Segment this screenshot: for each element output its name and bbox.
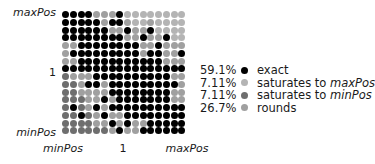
grid-dot bbox=[116, 89, 123, 96]
grid-dot bbox=[62, 58, 69, 65]
grid-dot bbox=[116, 73, 123, 80]
grid-dot bbox=[171, 96, 178, 103]
grid-dot bbox=[78, 120, 85, 127]
grid-dot bbox=[70, 34, 77, 41]
grid-dot bbox=[171, 19, 178, 26]
grid-dot bbox=[147, 96, 154, 103]
grid-dot bbox=[70, 104, 77, 111]
grid-dot bbox=[124, 112, 131, 119]
grid-dot bbox=[78, 127, 85, 134]
grid-dot bbox=[93, 34, 100, 41]
grid-dot bbox=[62, 42, 69, 49]
y-axis-label-minpos: minPos bbox=[2, 126, 56, 139]
grid-dot bbox=[178, 27, 185, 34]
grid-dot bbox=[178, 120, 185, 127]
grid-dot bbox=[171, 65, 178, 72]
grid-dot bbox=[140, 27, 147, 34]
grid-dot bbox=[124, 73, 131, 80]
grid-dot bbox=[85, 120, 92, 127]
grid-dot bbox=[155, 120, 162, 127]
grid-dot bbox=[132, 120, 139, 127]
grid-dot bbox=[124, 34, 131, 41]
grid-dot bbox=[62, 34, 69, 41]
grid-dot bbox=[163, 89, 170, 96]
grid-dot bbox=[178, 96, 185, 103]
grid-dot bbox=[109, 73, 116, 80]
grid-dot bbox=[109, 65, 116, 72]
grid-dot bbox=[140, 34, 147, 41]
grid-dot bbox=[93, 27, 100, 34]
grid-dot bbox=[85, 27, 92, 34]
grid-dot bbox=[178, 104, 185, 111]
legend-item-rounds: 26.7% rounds bbox=[200, 102, 375, 115]
grid-dot bbox=[101, 120, 108, 127]
grid-dot bbox=[124, 96, 131, 103]
grid-dot bbox=[132, 73, 139, 80]
grid-dot bbox=[155, 89, 162, 96]
grid-dot bbox=[101, 112, 108, 119]
grid-dot bbox=[163, 19, 170, 26]
grid-dot bbox=[70, 73, 77, 80]
grid-dot bbox=[171, 42, 178, 49]
grid-dot bbox=[155, 11, 162, 18]
grid-dot bbox=[93, 89, 100, 96]
grid-dot bbox=[62, 50, 69, 57]
grid-dot bbox=[109, 96, 116, 103]
grid-dot bbox=[155, 73, 162, 80]
grid-dot bbox=[171, 50, 178, 57]
grid-dot bbox=[132, 11, 139, 18]
grid-dot bbox=[101, 27, 108, 34]
grid-dot bbox=[70, 19, 77, 26]
legend-percent: 7.11% bbox=[200, 89, 238, 102]
grid-dot bbox=[70, 50, 77, 57]
grid-dot bbox=[163, 112, 170, 119]
grid-dot bbox=[109, 58, 116, 65]
legend: 59.1% exact 7.11% saturates to maxPos 7.… bbox=[200, 64, 375, 114]
grid-dot bbox=[155, 34, 162, 41]
grid-dot bbox=[147, 27, 154, 34]
grid-dot bbox=[101, 96, 108, 103]
grid-dot bbox=[93, 127, 100, 134]
grid-dot bbox=[132, 104, 139, 111]
grid-dot bbox=[147, 34, 154, 41]
grid-dot bbox=[78, 65, 85, 72]
grid-dot bbox=[147, 89, 154, 96]
grid-dot bbox=[93, 50, 100, 57]
grid-dot bbox=[78, 19, 85, 26]
grid-dot bbox=[147, 104, 154, 111]
grid-dot bbox=[124, 120, 131, 127]
grid-dot bbox=[93, 112, 100, 119]
grid-dot bbox=[109, 112, 116, 119]
grid-dot bbox=[101, 11, 108, 18]
grid-dot bbox=[116, 112, 123, 119]
grid-dot bbox=[93, 120, 100, 127]
legend-swatch-icon bbox=[241, 67, 248, 74]
grid-dot bbox=[178, 19, 185, 26]
grid-dot bbox=[78, 11, 85, 18]
grid-dot bbox=[85, 96, 92, 103]
grid-dot bbox=[70, 65, 77, 72]
grid-dot bbox=[140, 73, 147, 80]
grid-dot bbox=[140, 11, 147, 18]
x-axis-label-minpos: minPos bbox=[38, 142, 88, 155]
grid-dot bbox=[109, 127, 116, 134]
grid-dot bbox=[116, 96, 123, 103]
grid-dot bbox=[101, 89, 108, 96]
grid-dot bbox=[171, 58, 178, 65]
grid-dot bbox=[93, 104, 100, 111]
grid-dot bbox=[78, 58, 85, 65]
grid-dot bbox=[140, 19, 147, 26]
grid-dot bbox=[163, 65, 170, 72]
grid-dot bbox=[163, 50, 170, 57]
grid-dot bbox=[85, 65, 92, 72]
grid-dot bbox=[109, 104, 116, 111]
grid-dot bbox=[62, 120, 69, 127]
grid-dot bbox=[140, 112, 147, 119]
grid-dot bbox=[124, 104, 131, 111]
x-axis-label-maxpos: maxPos bbox=[160, 142, 214, 155]
grid-dot bbox=[116, 120, 123, 127]
grid-dot bbox=[70, 58, 77, 65]
grid-dot bbox=[132, 50, 139, 57]
grid-dot bbox=[93, 81, 100, 88]
grid-dot bbox=[147, 112, 154, 119]
